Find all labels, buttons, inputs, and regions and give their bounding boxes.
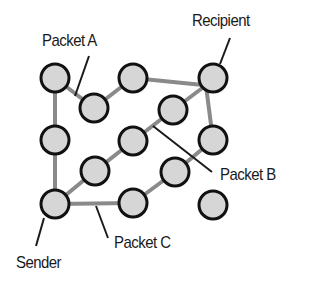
leader-sender [36,218,44,246]
node [199,126,227,154]
sender-node [41,190,69,218]
node [119,127,147,155]
label-packet-c: Packet C [114,234,170,251]
node [41,126,69,154]
node [161,158,189,186]
node [119,189,147,217]
node [80,94,108,122]
leader-packet-a [75,56,89,96]
node [199,191,227,219]
label-packet-b: Packet B [220,166,276,183]
leader-packet-c [96,206,108,238]
node [81,157,109,185]
recipient-node [199,64,227,92]
label-sender: Sender [16,254,61,271]
node [119,64,147,92]
label-packet-a: Packet A [42,32,97,49]
node [159,96,187,124]
leader-recipient [220,38,230,64]
node [41,64,69,92]
label-recipient: Recipient [192,12,250,29]
